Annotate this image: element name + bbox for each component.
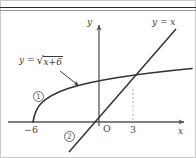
curve-equation-radicand: x+6 <box>43 56 63 67</box>
line-y-equals-x <box>69 29 176 152</box>
line-marker-circled-2: 2 <box>64 131 75 142</box>
x-tick-label-3: 3 <box>130 125 136 135</box>
origin-label: O <box>103 124 111 134</box>
x-tick-label-neg6: −6 <box>24 125 38 135</box>
x-axis-label: x <box>178 127 183 136</box>
curve-marker-circled-1: 1 <box>33 91 44 102</box>
curve-sqrt-x-plus-6 <box>33 69 192 123</box>
figure-canvas: y x O −6 3 y = x y = √ x+6 1 2 <box>0 0 196 158</box>
line-equation-label: y = x <box>152 18 175 27</box>
curve-equation-label: y = √ x+6 <box>19 56 63 67</box>
y-axis-label: y <box>87 18 92 27</box>
curve-label-leader-arrow <box>60 71 79 86</box>
curve-equation-lead: y = <box>19 56 35 65</box>
